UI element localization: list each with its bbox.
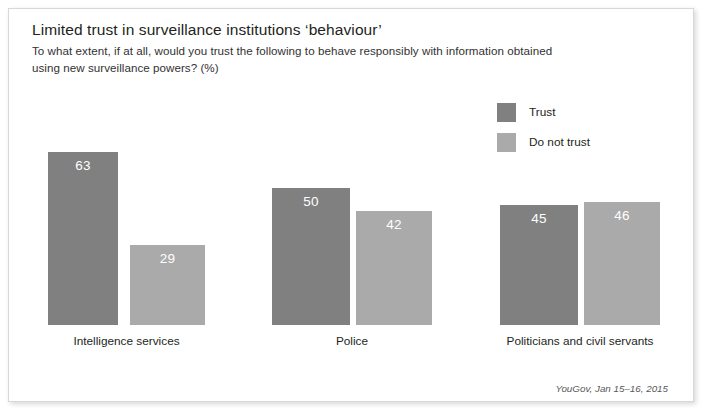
bar-intelligence-services-do-not-trust[interactable]: 29 [130,245,205,325]
bar-value-label: 46 [584,209,660,223]
bar-value-label: 63 [48,159,118,173]
group-label-politicians-and-civil-servants: Politicians and civil servants [500,334,660,348]
bar-value-label: 42 [356,218,432,232]
bar-police-trust[interactable]: 50 [272,188,350,325]
bar-value-label: 45 [500,212,578,226]
plot-area: 63 29 Intelligence services 50 42 Police… [0,0,702,417]
bar-politicians-do-not-trust[interactable]: 46 [584,202,660,325]
bar-value-label: 50 [272,195,350,209]
bar-police-do-not-trust[interactable]: 42 [356,211,432,325]
bar-politicians-trust[interactable]: 45 [500,205,578,325]
chart-figure: Limited trust in surveillance institutio… [0,0,702,417]
source-attribution: YouGov, Jan 15–16, 2015 [555,383,668,394]
bar-value-label: 29 [130,252,205,266]
group-label-intelligence-services: Intelligence services [48,334,205,348]
group-label-police: Police [272,334,432,348]
bar-intelligence-services-trust[interactable]: 63 [48,152,118,325]
